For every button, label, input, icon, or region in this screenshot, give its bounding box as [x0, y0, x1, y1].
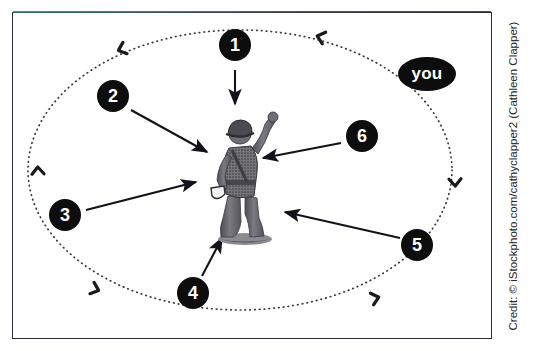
callout-number-1: 1: [230, 36, 240, 54]
callout-bubble-5[interactable]: 5: [401, 229, 433, 261]
callout-bubble-1[interactable]: 1: [219, 29, 251, 61]
figure-page: you 1 2 3 4 5 6 Credit: © iStockphoto.co…: [0, 0, 535, 351]
callout-bubble-2[interactable]: 2: [97, 80, 129, 112]
figurine-right-leg: [245, 196, 264, 237]
credit-margin: Credit: © iStockphoto.com/cathyclapper2 …: [493, 0, 533, 351]
you-label-text: you: [412, 64, 443, 84]
callout-bubble-6[interactable]: 6: [346, 120, 378, 152]
callout-bubble-4[interactable]: 4: [177, 277, 209, 309]
figurine-left-leg: [220, 196, 241, 237]
callout-arrow-2: [131, 110, 207, 152]
photo-credit: Credit: © iStockphoto.com/cathyclapper2 …: [507, 21, 519, 330]
figurine-helmet: [228, 120, 252, 136]
callout-arrow-3: [86, 182, 196, 210]
direction-chevron: [370, 291, 380, 304]
figurine-belt: [225, 180, 256, 185]
figurine-held-object: [211, 186, 225, 199]
callout-number-4: 4: [188, 284, 198, 302]
you-label: you: [398, 57, 456, 91]
callout-arrow-5: [285, 212, 400, 238]
toy-soldier-figurine: [205, 110, 285, 250]
callout-number-6: 6: [357, 127, 367, 145]
direction-chevron: [32, 167, 44, 174]
callout-number-2: 2: [108, 87, 118, 105]
callout-number-3: 3: [60, 206, 70, 224]
direction-chevron: [90, 282, 101, 296]
callout-bubble-3[interactable]: 3: [49, 199, 81, 231]
callout-number-5: 5: [412, 236, 422, 254]
figurine-hand: [268, 112, 278, 122]
